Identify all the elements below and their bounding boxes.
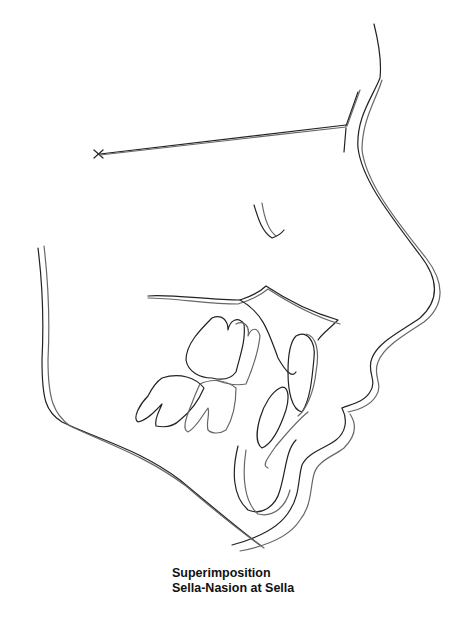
cephalometric-tracing [0, 0, 476, 623]
orbit-tracing [254, 203, 284, 238]
mandible-border [38, 246, 264, 548]
caption-title: Superimposition [172, 566, 294, 581]
sella-nasion-line [100, 90, 360, 155]
symphysis [234, 440, 296, 515]
caption-subtitle: Sella-Nasion at Sella [172, 581, 294, 596]
lower-molars [136, 376, 236, 433]
upper-molars [186, 317, 260, 385]
incisors [257, 334, 317, 468]
figure-caption: Superimposition Sella-Nasion at Sella [172, 566, 294, 596]
lower-lip-chin [232, 408, 354, 551]
soft-tissue-profile [342, 24, 440, 412]
